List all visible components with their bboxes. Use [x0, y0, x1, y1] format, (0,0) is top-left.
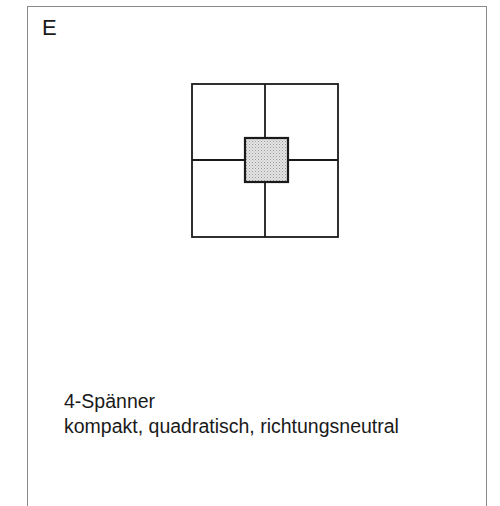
caption-title: 4-Spänner [64, 389, 399, 414]
circulation-core [245, 138, 288, 182]
caption: 4-Spänner kompakt, quadratisch, richtung… [64, 389, 399, 439]
caption-description: kompakt, quadratisch, richtungsneutral [64, 414, 399, 439]
